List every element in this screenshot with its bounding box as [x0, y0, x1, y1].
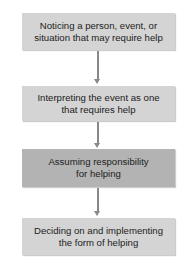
step-2-interpreting: Interpreting the event as onethat requir…	[22, 86, 175, 121]
step-1-line-2: situation that may require help	[34, 32, 163, 43]
arrow-down-icon	[97, 122, 99, 144]
step-4-line-1: Deciding on and implementing	[34, 225, 163, 236]
step-3-line-1: Assuming responsibility	[48, 156, 148, 167]
arrow-down-icon	[97, 51, 99, 80]
arrow-down-icon	[97, 188, 99, 212]
step-2-line-2: that requires help	[61, 104, 135, 115]
step-4-deciding: Deciding on and implementingthe form of …	[22, 218, 175, 255]
step-1-noticing: Noticing a person, event, orsituation th…	[22, 13, 175, 50]
step-2-line-1: Interpreting the event as one	[37, 92, 159, 103]
step-3-line-2: for helping	[76, 168, 121, 179]
step-1-line-1: Noticing a person, event, or	[40, 20, 157, 31]
step-3-assuming-responsibility: Assuming responsibilityfor helping	[22, 149, 175, 187]
step-4-line-2: the form of helping	[59, 237, 138, 248]
